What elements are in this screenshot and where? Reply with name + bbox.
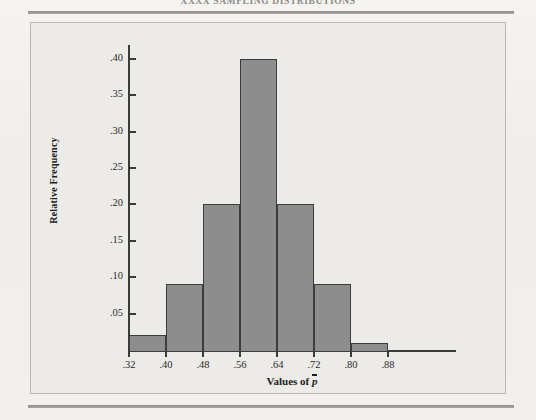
x-tick-mark bbox=[239, 352, 241, 357]
y-tick-mark bbox=[130, 240, 136, 242]
y-tick-mark bbox=[130, 131, 136, 133]
x-tick-mark bbox=[350, 352, 352, 357]
y-tick-label: .30 bbox=[83, 125, 123, 136]
x-tick-label: .56 bbox=[220, 359, 260, 370]
figure-panel: Relative Frequency Values of p .05.10.15… bbox=[30, 22, 506, 394]
x-tick-label: .64 bbox=[257, 359, 297, 370]
x-tick-mark bbox=[313, 352, 315, 357]
y-tick-mark bbox=[130, 167, 136, 169]
x-axis-title: Values of p bbox=[128, 375, 456, 387]
x-tick-label: .80 bbox=[331, 359, 371, 370]
histogram-bar bbox=[203, 204, 240, 352]
histogram-bar bbox=[277, 204, 314, 352]
y-tick-mark bbox=[130, 276, 136, 278]
y-tick-mark bbox=[130, 313, 136, 315]
x-tick-label: .48 bbox=[183, 359, 223, 370]
y-axis-line bbox=[128, 45, 130, 353]
y-tick-label: .05 bbox=[83, 307, 123, 318]
x-tick-mark bbox=[202, 352, 204, 357]
histogram-bar bbox=[240, 59, 277, 352]
histogram-plot: Relative Frequency Values of p .05.10.15… bbox=[31, 23, 507, 395]
x-tick-mark bbox=[276, 352, 278, 357]
y-tick-label: .10 bbox=[83, 270, 123, 281]
y-tick-label: .20 bbox=[83, 197, 123, 208]
running-head: XXXX SAMPLING DISTRIBUTIONS bbox=[0, 0, 536, 10]
x-tick-label: .72 bbox=[294, 359, 334, 370]
x-tick-mark bbox=[165, 352, 167, 357]
footer-rule bbox=[28, 405, 514, 408]
histogram-bar bbox=[351, 343, 388, 352]
y-axis-title: Relative Frequency bbox=[48, 91, 59, 271]
y-tick-mark bbox=[130, 58, 136, 60]
x-tick-label: .32 bbox=[109, 359, 149, 370]
x-tick-mark bbox=[128, 352, 130, 357]
y-tick-label: .25 bbox=[83, 161, 123, 172]
y-tick-label: .15 bbox=[83, 234, 123, 245]
x-axis-title-text: Values of bbox=[267, 375, 310, 387]
y-tick-mark bbox=[130, 94, 136, 96]
histogram-bar bbox=[314, 284, 351, 352]
x-tick-label: .40 bbox=[146, 359, 186, 370]
x-tick-label: .88 bbox=[368, 359, 408, 370]
x-tick-mark bbox=[387, 352, 389, 357]
histogram-bar bbox=[129, 335, 166, 352]
header-rule bbox=[28, 11, 514, 14]
y-tick-mark bbox=[130, 203, 136, 205]
y-tick-label: .35 bbox=[83, 88, 123, 99]
p-bar-symbol: p bbox=[312, 375, 318, 387]
y-tick-label: .40 bbox=[83, 52, 123, 63]
histogram-bar bbox=[166, 284, 203, 352]
